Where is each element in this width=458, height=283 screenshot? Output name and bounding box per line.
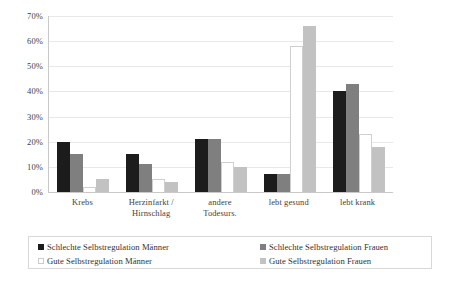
bar[interactable] [290, 46, 303, 192]
bar-group [118, 16, 187, 192]
x-category-label: Herzinfarkt /Hirnschlag [117, 194, 186, 228]
bar[interactable] [70, 154, 83, 192]
bar[interactable] [234, 167, 247, 192]
bar[interactable] [303, 26, 316, 192]
bar-group [49, 16, 118, 192]
bar[interactable] [57, 142, 70, 192]
legend-entry[interactable]: Schlechte Selbstregulation Männer [38, 241, 260, 253]
legend-swatch-icon [38, 244, 44, 250]
bar-group [187, 16, 256, 192]
y-axis: 0%10%20%30%40%50%60%70% [0, 0, 48, 215]
legend-label: Gute Selbstregulation Männer [47, 256, 152, 267]
legend-label: Schlechte Selbstregulation Männer [47, 242, 169, 253]
legend-label: Gute Selbstregulation Frauen [269, 256, 371, 267]
bar[interactable] [221, 162, 234, 192]
bar[interactable] [152, 179, 165, 192]
x-axis: KrebsHerzinfarkt /HirnschlagandereTodesu… [48, 194, 392, 228]
y-tick-label: 30% [27, 112, 43, 121]
legend-label: Schlechte Selbstregulation Frauen [269, 242, 388, 253]
plot-wrapper: 0%10%20%30%40%50%60%70% KrebsHerzinfarkt… [0, 0, 458, 215]
legend-swatch-icon [260, 244, 266, 250]
bars [118, 16, 187, 192]
y-tick-label: 0% [31, 188, 43, 197]
bar[interactable] [139, 164, 152, 192]
bar[interactable] [126, 154, 139, 192]
bar[interactable] [359, 134, 372, 192]
x-category-label: andereTodesurs. [186, 194, 255, 228]
x-category-label: lebt gesund [254, 194, 323, 228]
bar-group [255, 16, 324, 192]
bar-chart: 0%10%20%30%40%50%60%70% KrebsHerzinfarkt… [0, 0, 458, 283]
bar[interactable] [96, 179, 109, 192]
legend-swatch-icon [38, 258, 44, 264]
legend-entry[interactable]: Schlechte Selbstregulation Frauen [260, 241, 431, 253]
bar-group [324, 16, 393, 192]
bars [324, 16, 393, 192]
y-tick-label: 70% [27, 12, 43, 21]
bar[interactable] [264, 174, 277, 192]
bar[interactable] [195, 139, 208, 192]
y-tick-label: 60% [27, 37, 43, 46]
bars [255, 16, 324, 192]
plot-area [48, 16, 393, 193]
y-tick-label: 10% [27, 162, 43, 171]
y-tick-label: 40% [27, 87, 43, 96]
bar[interactable] [372, 147, 385, 192]
legend: Schlechte Selbstregulation MännerSchlech… [28, 236, 432, 269]
bar[interactable] [333, 91, 346, 192]
bar-groups [49, 16, 393, 192]
bar[interactable] [346, 84, 359, 192]
legend-swatch-icon [260, 258, 266, 264]
bars [187, 16, 256, 192]
y-tick-label: 20% [27, 137, 43, 146]
bar[interactable] [277, 174, 290, 192]
y-tick-label: 50% [27, 62, 43, 71]
bars [49, 16, 118, 192]
bar[interactable] [208, 139, 221, 192]
x-category-label: Krebs [48, 194, 117, 228]
bar[interactable] [165, 182, 178, 192]
legend-entry[interactable]: Gute Selbstregulation Frauen [260, 255, 431, 267]
legend-entry[interactable]: Gute Selbstregulation Männer [38, 255, 260, 267]
gridline [49, 192, 393, 193]
legend-grid: Schlechte Selbstregulation MännerSchlech… [38, 241, 431, 267]
x-category-label: lebt krank [323, 194, 392, 228]
bar[interactable] [83, 187, 96, 192]
